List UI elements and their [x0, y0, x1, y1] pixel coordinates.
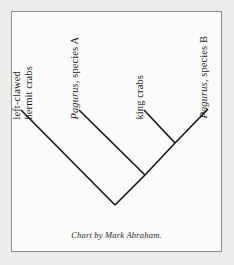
taxon-label-king-crabs: king crabs [134, 75, 146, 119]
taxon-genus-pagurus-a: Pagurus [69, 83, 80, 119]
branch-node-a-to-pagurus-species-a [79, 110, 145, 175]
chart-caption: Chart by Mark Abraham. [11, 230, 222, 240]
taxon-epithet-species-a: , species A [69, 37, 80, 83]
taxon-label-left-clawed-hermit-crabs-line2: hermit crabs [23, 66, 35, 119]
branch-root-to-node-a [115, 175, 145, 205]
branch-node-b-to-king-crabs [144, 110, 175, 143]
taxon-genus-pagurus-b: Pagurus [198, 82, 209, 118]
taxon-label-pagurus-species-b: Pagurus, species B [198, 36, 210, 119]
taxon-label-line-1: left-clawed [11, 71, 23, 119]
branch-node-a-to-node-b [145, 143, 175, 175]
page-background: left-clawed hermit crabs Pagurus, specie… [0, 0, 234, 265]
taxon-epithet-species-b: , species B [198, 36, 209, 82]
branch-root-to-left-clawed-hermit-crabs [21, 110, 115, 205]
taxon-label-king-crabs-text: king crabs [134, 75, 145, 119]
branch-group [21, 109, 208, 205]
taxon-label-left-clawed-hermit-crabs: left-clawed [11, 71, 23, 119]
taxon-label-pagurus-species-a: Pagurus, species A [69, 37, 81, 120]
taxon-label-line-2: hermit crabs [23, 66, 35, 119]
